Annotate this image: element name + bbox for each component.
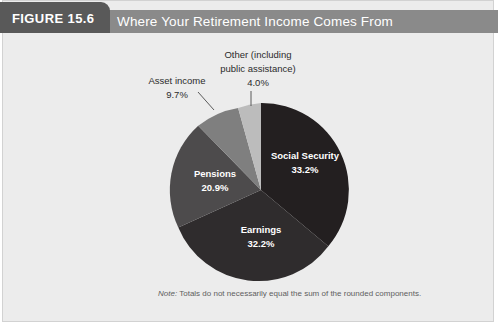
callout-label-other-line2: public assistance) xyxy=(220,63,296,74)
figure-number-label: FIGURE 15.6 xyxy=(12,2,110,33)
figure-note: Note: Totals do not necessarily equal th… xyxy=(158,288,458,300)
slice-value-pensions: 20.9% xyxy=(202,182,229,193)
figure-title: Where Your Retirement Income Comes From xyxy=(117,10,393,33)
slice-label-social-security: Social Security xyxy=(271,150,340,161)
figure-note-prefix: Note: xyxy=(158,289,177,298)
callout-value-other: 4.0% xyxy=(247,77,269,88)
figure-header: FIGURE 15.6 Where Your Retirement Income… xyxy=(0,0,498,34)
callout-value-asset-income: 9.7% xyxy=(166,89,188,100)
pie-chart-svg: Social Security 33.2% Earnings 32.2% Pen… xyxy=(2,34,494,322)
slice-value-earnings: 32.2% xyxy=(248,238,275,249)
callout-label-other-line1: Other (including xyxy=(224,49,291,60)
pie-callout-other: Other (including public assistance) 4.0% xyxy=(220,49,296,106)
pie-chart: Social Security 33.2% Earnings 32.2% Pen… xyxy=(2,34,494,322)
figure-root: FIGURE 15.6 Where Your Retirement Income… xyxy=(0,0,498,334)
pie-callout-asset-income: Asset income 9.7% xyxy=(148,75,214,110)
slice-label-earnings: Earnings xyxy=(241,224,282,235)
pie-slices xyxy=(170,103,349,281)
slice-label-pensions: Pensions xyxy=(194,168,236,179)
figure-note-text: Totals do not necessarily equal the sum … xyxy=(177,289,421,298)
slice-value-social-security: 33.2% xyxy=(292,164,319,175)
callout-label-asset-income: Asset income xyxy=(148,75,205,86)
leader-line-asset-income xyxy=(198,92,214,110)
